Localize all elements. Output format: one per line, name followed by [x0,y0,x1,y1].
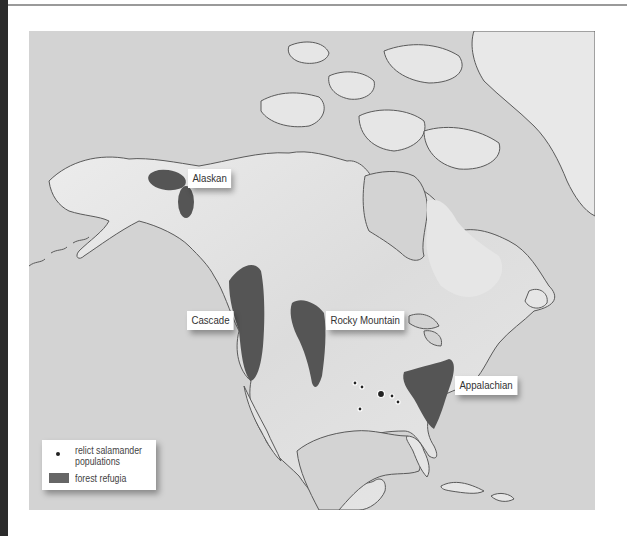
arctic-island [424,127,500,169]
salamander-dot [396,400,400,404]
salamander-dot [358,407,362,411]
cuba [441,482,484,493]
legend-label-salamanders-line1: relict salamander [75,445,142,456]
label-rocky-mountain: Rocky Mountain [326,311,404,330]
arctic-island [329,72,375,99]
hispaniola [491,493,514,501]
legend-label-forest-refugia: forest refugia [75,473,126,484]
salamander-dot-symbol [56,452,60,456]
map-legend: relict salamander populations forest ref… [42,440,156,490]
salamander-dot [378,391,385,398]
forest-refugia-swatch [49,473,69,483]
salamander-dot [390,394,394,398]
label-appalachian: Appalachian [455,376,517,395]
map-frame [29,31,595,510]
label-alaskan: Alaskan [188,169,231,188]
refugium-cascade [229,265,264,381]
legend-label-salamanders-line2: populations [75,456,120,467]
arctic-island [359,110,425,151]
salamander-dot [360,385,364,389]
newfoundland [525,289,547,308]
greenland [472,31,595,216]
arctic-island [384,45,462,83]
refugium-alaskan-east [178,186,194,218]
label-cascade: Cascade [187,311,234,330]
window-edge-strip [0,0,8,536]
arctic-island [288,42,329,63]
arctic-island [261,93,324,127]
salamander-dot [353,381,357,385]
top-divider [8,4,627,6]
north-america-map [29,31,595,510]
